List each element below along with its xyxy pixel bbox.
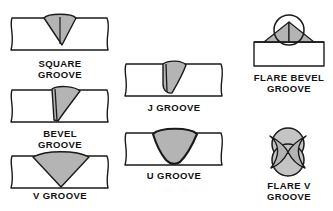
label-square-groove: SQUARE GROOVE: [8, 58, 112, 80]
label-j-groove: J GROOVE: [122, 102, 226, 113]
figure-flare-bevel-groove: [248, 10, 330, 70]
figure-square-groove: [8, 14, 112, 54]
label-flare-bevel-groove: FLARE BEVEL GROOVE: [244, 72, 333, 94]
groove-weld-diagram: SQUARE GROOVE BEVEL GROOVE V GROOVE J GR…: [0, 0, 333, 211]
label-u-groove: U GROOVE: [122, 170, 226, 181]
label-flare-v-groove: FLARE V GROOVE: [244, 180, 333, 202]
label-v-groove: V GROOVE: [8, 190, 112, 201]
label-bevel-groove: BEVEL GROOVE: [8, 128, 112, 150]
figure-bevel-groove: [8, 86, 112, 126]
figure-j-groove: [122, 60, 226, 100]
figure-v-groove: [8, 152, 112, 192]
figure-u-groove: [122, 128, 226, 170]
figure-flare-v-groove: [258, 126, 318, 180]
